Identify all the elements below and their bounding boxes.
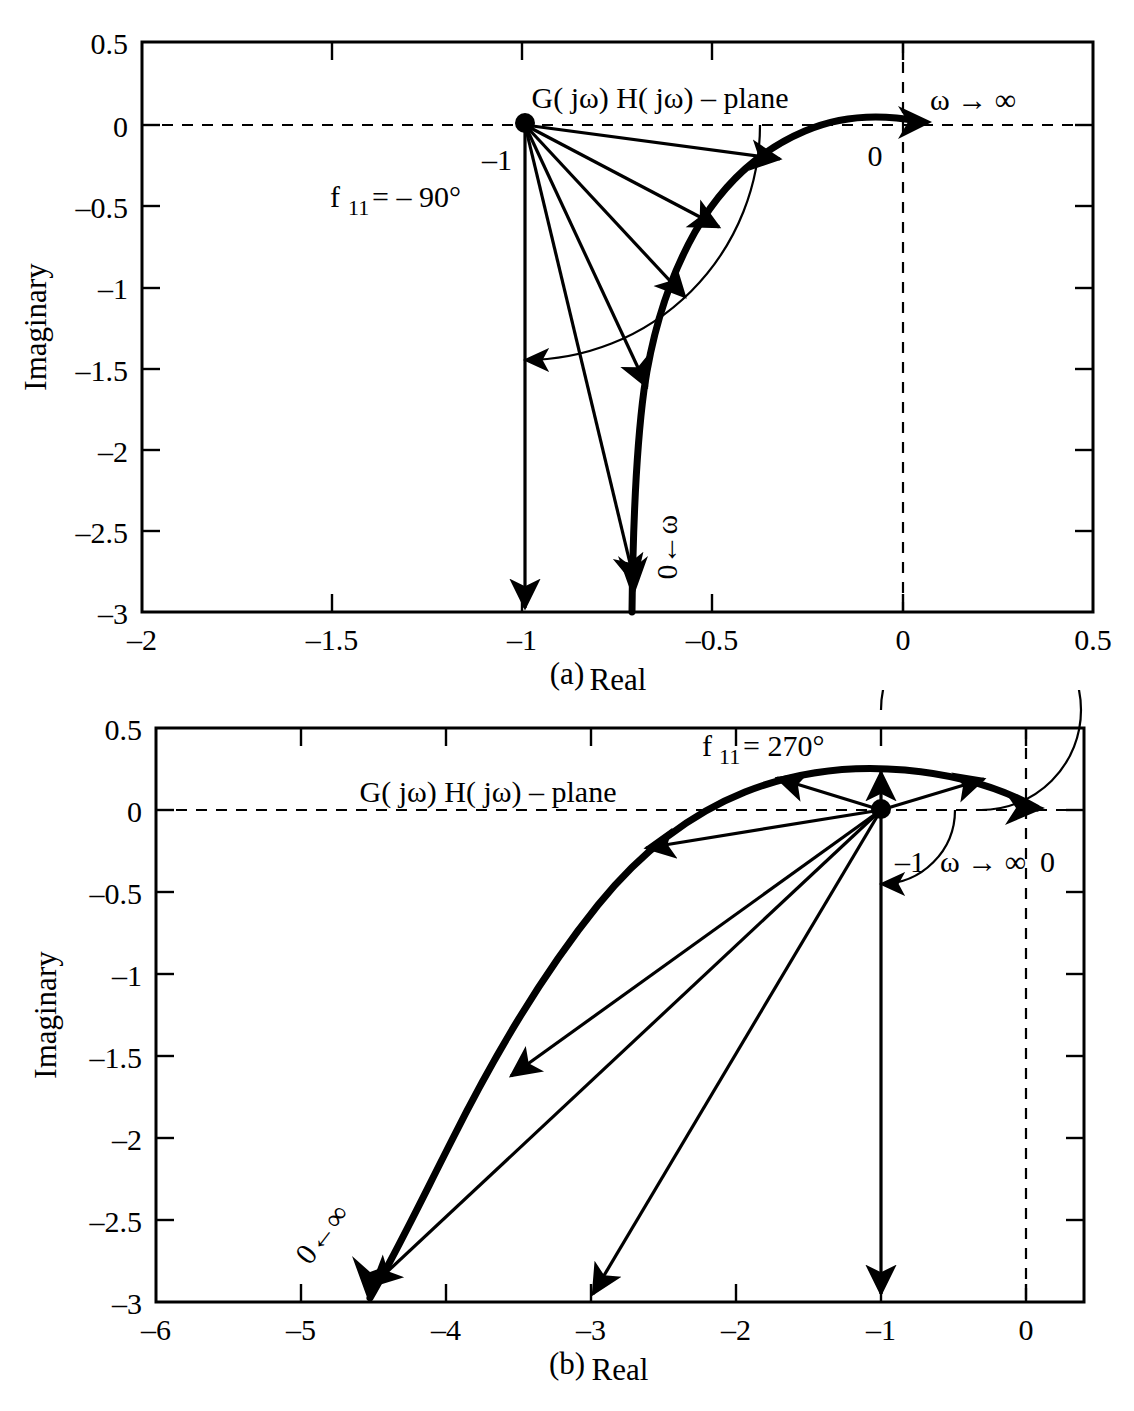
plot-a-critical-point-dot	[515, 113, 535, 133]
xtick-label: –1.5	[305, 623, 359, 656]
ytick-label: –3	[111, 1287, 142, 1320]
phase-value: = 270°	[743, 729, 824, 762]
plot-b-omega-zero-label: 0←∞	[288, 1197, 355, 1270]
plot-b-phase-arc	[881, 690, 1081, 810]
nyquist-plot-a: 0.5 0 –0.5 –1 –1.5 –2 –2.5 –3 –2 –1.5 –1…	[0, 0, 1134, 700]
xtick-label: –1	[506, 623, 537, 656]
plot-b-origin-label: 0	[1040, 845, 1055, 878]
plot-b-yaxis-title: Imaginary	[28, 951, 63, 1079]
plot-b-phasor-vectors	[372, 772, 984, 1294]
ytick-label: –1.5	[89, 1041, 143, 1074]
xtick-label: –2	[126, 623, 157, 656]
ytick-label: –1	[111, 959, 142, 992]
nyquist-figure: 0.5 0 –0.5 –1 –1.5 –2 –2.5 –3 –2 –1.5 –1…	[0, 0, 1134, 1411]
ytick-label: –2	[111, 1123, 142, 1156]
xtick-label: 0.5	[1074, 623, 1112, 656]
plot-b-xtick-labels: –6 –5 –4 –3 –2 –1 0	[140, 1313, 1034, 1346]
phase-symbol: f	[330, 180, 340, 213]
plot-b-omega-infinity-label: ω → ∞	[940, 845, 1026, 878]
ytick-label: –1	[97, 272, 128, 305]
phase-symbol: f	[702, 729, 712, 762]
phase-value: = – 90°	[372, 180, 461, 213]
nyquist-plot-b: 0.5 0 –0.5 –1 –1.5 –2 –2.5 –3 –6 –5 –4 –…	[0, 690, 1134, 1411]
xtick-label: –3	[575, 1313, 606, 1346]
plot-a-yticks	[142, 125, 1093, 531]
plot-a-plane-label: G( jω) H( jω) – plane	[532, 81, 789, 115]
panel-a: 0.5 0 –0.5 –1 –1.5 –2 –2.5 –3 –2 –1.5 –1…	[0, 0, 1134, 700]
plot-b-critical-point-label: –1	[894, 845, 925, 878]
phase-subscript: 11	[719, 744, 740, 769]
xtick-label: 0	[896, 623, 911, 656]
ytick-label: 0	[127, 795, 142, 828]
plot-a-xtick-labels: –2 –1.5 –1 –0.5 0 0.5	[126, 623, 1112, 656]
ytick-label: –2.5	[75, 516, 129, 549]
xtick-label: –2	[720, 1313, 751, 1346]
ytick-label: –2.5	[89, 1205, 143, 1238]
ytick-label: –1.5	[75, 354, 129, 387]
plot-b-frame	[156, 728, 1084, 1302]
plot-a-phase-arc	[525, 125, 760, 360]
ytick-label: –3	[97, 597, 128, 630]
xtick-label: 0	[1019, 1313, 1034, 1346]
plot-a-omega-zero-label: 0←ω	[650, 515, 683, 580]
ytick-label: –2	[97, 435, 128, 468]
xtick-label: –1	[865, 1313, 896, 1346]
plot-a-critical-point-label: –1	[481, 143, 512, 176]
plot-a-omega-infinity-label: ω → ∞	[930, 83, 1016, 116]
plot-b-ytick-labels: 0.5 0 –0.5 –1 –1.5 –2 –2.5 –3	[89, 713, 143, 1320]
ytick-label: 0.5	[105, 713, 143, 746]
xtick-label: –0.5	[685, 623, 739, 656]
panel-b-caption: (b)	[549, 1346, 585, 1381]
ytick-label: 0.5	[91, 27, 129, 60]
ytick-label: –0.5	[89, 877, 143, 910]
plot-b-critical-point-dot	[871, 799, 891, 819]
xtick-label: –5	[285, 1313, 316, 1346]
ytick-label: 0	[113, 110, 128, 143]
plot-a-ytick-labels: 0.5 0 –0.5 –1 –1.5 –2 –2.5 –3	[75, 27, 129, 630]
panel-a-caption: (a)	[550, 656, 584, 691]
xtick-label: –6	[140, 1313, 171, 1346]
plot-a-yaxis-title: Imaginary	[18, 263, 53, 391]
plot-b-nyquist-curve	[370, 768, 1037, 1298]
xtick-label: –4	[430, 1313, 461, 1346]
ytick-label: –0.5	[75, 191, 129, 224]
plot-b-plane-label: G( jω) H( jω) – plane	[360, 775, 617, 809]
plot-a-phase-angle-label: f 11 = – 90°	[330, 180, 461, 220]
panel-b: 0.5 0 –0.5 –1 –1.5 –2 –2.5 –3 –6 –5 –4 –…	[0, 690, 1134, 1411]
plot-a-origin-label: 0	[868, 139, 883, 172]
plot-b-phase-angle-label: f 11 = 270°	[702, 729, 824, 769]
phase-subscript: 11	[348, 195, 369, 220]
